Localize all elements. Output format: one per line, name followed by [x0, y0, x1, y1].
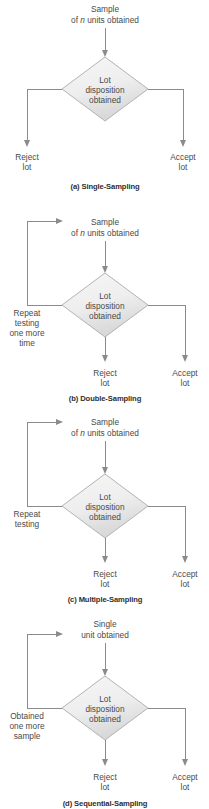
arrowhead-feedback-loop — [56, 631, 63, 637]
reject-label-line2: lot — [23, 162, 32, 172]
panel-caption: (c) Multiple-Sampling — [68, 595, 143, 604]
arrowhead-source-to-decision — [102, 669, 108, 676]
arrowhead-feedback-loop — [56, 218, 63, 224]
decision-label-line3: obtained — [89, 512, 121, 522]
arrowhead-reject — [102, 355, 108, 362]
source-label-line2: of n units obtained — [71, 15, 139, 25]
decision-label-line1: Lot — [99, 291, 111, 301]
feedback-label-line1: Repeat — [14, 509, 41, 519]
accept-label-line2: lot — [179, 162, 188, 172]
source-label-line2: of n units obtained — [71, 228, 139, 238]
decision-label-line1: Lot — [99, 492, 111, 502]
feedback-label-line1: Obtained — [10, 711, 44, 721]
source-label-line2: of n units obtained — [71, 428, 139, 438]
panel-multiple-sampling: Sample of n units obtained Lot dispositi… — [0, 405, 209, 605]
decision-label-line2: disposition — [85, 301, 125, 311]
panel-caption: (a) Single-Sampling — [71, 182, 140, 191]
feedback-label-line3: sample — [14, 731, 41, 741]
arrowhead-reject — [102, 556, 108, 563]
decision-label-line2: disposition — [85, 85, 125, 95]
feedback-label-line1: Repeat — [14, 308, 41, 318]
decision-label-line3: obtained — [89, 95, 121, 105]
decision-label-line3: obtained — [89, 311, 121, 321]
reject-label-line2: lot — [101, 782, 110, 792]
panel-sequential-sampling: Single unit obtained Lot disposition obt… — [0, 605, 209, 809]
arrowhead-accept — [182, 759, 188, 766]
arrowhead-reject — [24, 140, 30, 147]
arrowhead-feedback-loop — [56, 419, 63, 425]
reject-label-line1: Reject — [93, 772, 117, 782]
decision-label-line2: disposition — [85, 502, 125, 512]
sampling-flowcharts-figure: Sample of n units obtained Lot dispositi… — [0, 0, 209, 809]
decision-label-line1: Lot — [99, 75, 111, 85]
arrowhead-accept — [182, 355, 188, 362]
path-feedback-loop — [27, 221, 62, 305]
panel-caption: (b) Double-Sampling — [69, 394, 142, 403]
path-accept-branch — [148, 89, 183, 141]
arrowhead-source-to-decision — [102, 50, 108, 57]
source-label-line1: Sample — [91, 217, 120, 227]
reject-label-line1: Reject — [93, 569, 117, 579]
decision-label-line1: Lot — [99, 694, 111, 704]
path-accept-branch — [148, 708, 185, 760]
accept-label-line1: Accept — [170, 152, 196, 162]
feedback-label-line4: time — [19, 338, 35, 348]
panel-single-sampling: Sample of n units obtained Lot dispositi… — [0, 0, 209, 195]
accept-label-line1: Accept — [172, 772, 198, 782]
arrowhead-source-to-decision — [102, 266, 108, 273]
path-feedback-loop — [27, 422, 62, 506]
path-accept-branch — [148, 305, 185, 356]
path-reject-branch — [27, 89, 62, 141]
accept-label-line2: lot — [181, 782, 190, 792]
decision-label-line3: obtained — [89, 714, 121, 724]
reject-label-line1: Reject — [15, 152, 39, 162]
accept-label-line1: Accept — [172, 569, 198, 579]
feedback-label-line2: one more — [9, 721, 44, 731]
path-accept-branch — [148, 506, 185, 557]
source-label-line2: unit obtained — [81, 630, 129, 640]
feedback-label-line2: testing — [15, 318, 40, 328]
panel-caption: (d) Sequential-Sampling — [63, 799, 148, 808]
feedback-label-line3: one more — [9, 328, 44, 338]
accept-label-line2: lot — [181, 378, 190, 388]
panel-double-sampling: Sample of n units obtained Lot dispositi… — [0, 200, 209, 405]
source-label-line1: Sample — [91, 417, 120, 427]
accept-label-line2: lot — [181, 579, 190, 589]
arrowhead-accept — [180, 140, 186, 147]
arrowhead-accept — [182, 556, 188, 563]
arrowhead-source-to-decision — [102, 467, 108, 474]
source-label-line1: Sample — [91, 4, 120, 14]
decision-label-line2: disposition — [85, 704, 125, 714]
reject-label-line2: lot — [101, 579, 110, 589]
accept-label-line1: Accept — [172, 368, 198, 378]
arrowhead-reject — [102, 759, 108, 766]
path-feedback-loop — [27, 634, 62, 708]
reject-label-line1: Reject — [93, 368, 117, 378]
feedback-label-line2: testing — [15, 519, 40, 529]
source-label-line1: Single — [93, 619, 116, 629]
reject-label-line2: lot — [101, 378, 110, 388]
